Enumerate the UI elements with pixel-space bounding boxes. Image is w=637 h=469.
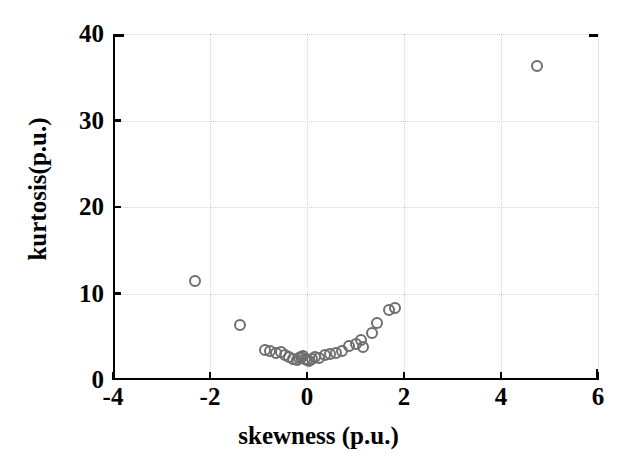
axes-frame: [113, 34, 598, 380]
x-axis-title: skewness (p.u.): [0, 422, 637, 450]
data-point-marker: [234, 319, 246, 331]
y-axis-tick-label: 10: [48, 281, 104, 306]
y-axis-tick-label: 40: [48, 21, 104, 46]
x-axis-tick-label: -2: [180, 384, 240, 409]
x-axis-tick-label: 0: [277, 384, 337, 409]
axis-cap-top-left: [115, 34, 124, 37]
y-axis-tick-label: 0: [48, 367, 104, 392]
x-axis-tick: [597, 372, 600, 380]
y-axis-tick: [113, 292, 121, 295]
data-point-marker: [531, 60, 543, 72]
x-axis-tick: [112, 372, 115, 380]
y-axis-tick-label: 20: [48, 194, 104, 219]
axis-cap-top-right: [589, 34, 598, 37]
y-axis-tick-label: 30: [48, 108, 104, 133]
x-axis-tick: [403, 372, 406, 380]
data-point-marker: [189, 275, 201, 287]
x-axis-tick-label: 6: [568, 384, 628, 409]
x-axis-tick-label: 4: [471, 384, 531, 409]
x-axis-tick: [306, 372, 309, 380]
x-axis-tick-label: 2: [374, 384, 434, 409]
plot-area: [113, 34, 598, 380]
y-axis-tick: [113, 206, 121, 209]
chart-figure: -4-20246010203040 skewness (p.u.) kurtos…: [0, 0, 637, 469]
x-axis-tick: [209, 372, 212, 380]
gridline-vertical: [598, 34, 600, 380]
y-axis-title: kurtosis(p.u.): [24, 69, 52, 309]
y-axis-tick: [113, 119, 121, 122]
x-axis-tick: [500, 372, 503, 380]
